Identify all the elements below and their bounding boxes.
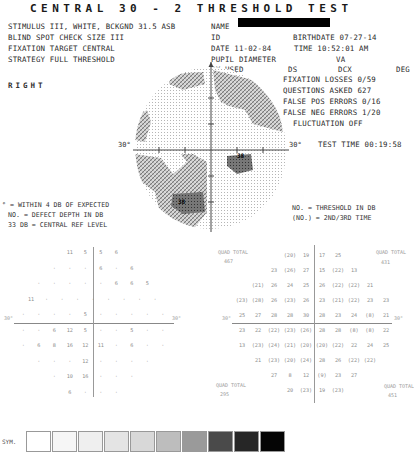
- test-time-of-day: TIME 10:52:01 AM: [294, 44, 368, 53]
- legend-central-ref: 33 DB = CENTRAL REF LEVEL: [8, 221, 107, 229]
- symbol-legend-swatch: [156, 431, 181, 452]
- threshold-grid-cell: (24): [268, 343, 281, 348]
- threshold-grid-cell: 28: [271, 313, 277, 318]
- threshold-grid-cell: (23): [284, 328, 297, 333]
- defect-grid-cell: ·: [99, 359, 102, 364]
- threshold-grid-cell: 21: [367, 283, 373, 288]
- threshold-grid-cell: 24: [351, 313, 357, 318]
- blind-spot-info: BLIND SPOT CHECK SIZE III: [8, 33, 124, 42]
- symbol-legend-swatch: [130, 431, 155, 452]
- defect-grid-cell: 12: [82, 344, 88, 349]
- quad-total-ul: 467: [224, 258, 233, 264]
- symbol-legend-swatch: [78, 431, 103, 452]
- threshold-grid-cell: 28: [319, 358, 325, 363]
- threshold-grid-axis-right: 30°: [394, 315, 403, 321]
- threshold-grid-cell: 19: [319, 388, 325, 393]
- defect-grid-cell: ·: [115, 266, 118, 271]
- threshold-grid-cell: (20): [284, 358, 297, 363]
- defect-grid-cell: 5: [130, 328, 133, 333]
- fixation-losses: FIXATION LOSSES 0/59: [283, 75, 376, 84]
- threshold-grid-cell: (21): [252, 283, 265, 288]
- threshold-grid-cell: 22: [351, 343, 357, 348]
- defect-grid-cell: ·: [68, 282, 71, 287]
- threshold-grid-cell: 12: [303, 373, 309, 378]
- defect-grid-cell: 5: [84, 313, 87, 318]
- defect-grid-cell: 16: [82, 375, 88, 380]
- symbol-legend-swatch: [104, 431, 129, 452]
- symbol-legend-swatch: [234, 431, 259, 452]
- fixation-target: FIXATION TARGET CENTRAL: [8, 44, 115, 53]
- threshold-grid-cell: (22): [268, 328, 281, 333]
- defect-grid-cell: ·: [37, 313, 40, 318]
- defect-grid-cell: 11: [67, 251, 73, 256]
- strategy: STRATEGY FULL THRESHOLD: [8, 55, 115, 64]
- defect-grid-cell: ·: [37, 328, 40, 333]
- defect-grid-cell: ·: [37, 359, 40, 364]
- threshold-grid-cell: 24: [287, 283, 293, 288]
- defect-grid-cell: ·: [84, 282, 87, 287]
- threshold-grid-cell: 26: [335, 358, 341, 363]
- defect-grid-cell: ·: [146, 359, 149, 364]
- grayscale-map-graphic: [133, 62, 289, 232]
- legend-repeat: (NO.) = 2ND/3RD TIME: [292, 214, 371, 222]
- defect-grid-cell: 6: [130, 266, 133, 271]
- defect-grid-axis-right: 30°: [172, 315, 181, 321]
- birthdate: BIRTHDATE 07-27-14: [293, 33, 377, 42]
- threshold-grid-cell: 25: [383, 343, 389, 348]
- defect-grid-cell: 6: [68, 390, 71, 395]
- defect-grid-cell: ·: [68, 359, 71, 364]
- threshold-grid: 30° 30° QUAD TOTAL 467 QUAD TOTAL 431 QU…: [210, 245, 412, 405]
- defect-grid-cell: ·: [37, 282, 40, 287]
- threshold-grid-cell: (22): [348, 298, 361, 303]
- defect-grid-cell: 6: [115, 282, 118, 287]
- threshold-grid-cell: 26: [303, 298, 309, 303]
- defect-grid-cell: ·: [91, 297, 94, 302]
- defect-grid-cell: 6: [115, 251, 118, 256]
- threshold-grid-cell: 27: [303, 268, 309, 273]
- defect-grid-cell: ·: [84, 390, 87, 395]
- threshold-grid-cell: (23): [284, 298, 297, 303]
- quad-total-ul-label: QUAD TOTAL: [218, 249, 248, 255]
- defect-grid-cell: ·: [153, 297, 156, 302]
- threshold-grid-cell: 27: [271, 373, 277, 378]
- defect-label-lower: 38: [178, 198, 185, 205]
- defect-grid-cell: ·: [22, 328, 25, 333]
- defect-grid-cell: ·: [146, 344, 149, 349]
- threshold-grid-cell: 21: [383, 313, 389, 318]
- threshold-grid-v-axis: [314, 245, 315, 403]
- threshold-grid-cell: (20): [284, 253, 297, 258]
- rx-deg: DEG: [396, 65, 410, 74]
- threshold-grid-axis-left: 30°: [222, 315, 231, 321]
- threshold-grid-cell: (21): [284, 343, 297, 348]
- threshold-grid-cell: 25: [303, 283, 309, 288]
- threshold-grid-cell: 23: [271, 268, 277, 273]
- defect-grid-cell: ·: [107, 297, 110, 302]
- stimulus-info: STIMULUS III, WHITE, BCKGND 31.5 ASB: [8, 22, 175, 31]
- legend-threshold: NO. = THRESHOLD IN DB: [292, 204, 375, 212]
- defect-grid-v-axis: [93, 247, 94, 397]
- defect-grid-cell: ·: [161, 344, 164, 349]
- rx-dcx: DCX: [338, 65, 352, 74]
- defect-grid-cell: 6: [53, 328, 56, 333]
- threshold-grid-cell: (26): [300, 328, 313, 333]
- defect-grid-h-axis: [14, 323, 174, 324]
- threshold-grid-cell: 26: [319, 283, 325, 288]
- defect-grid-cell: ·: [146, 328, 149, 333]
- false-pos-errors: FALSE POS ERRORS 0/16: [283, 97, 381, 106]
- legend-within-expected: ° = WITHIN 4 DB OF EXPECTED: [2, 201, 109, 209]
- defect-grid-cell: 10: [67, 375, 73, 380]
- quad-total-ur-label: QUAD TOTAL: [376, 249, 406, 255]
- threshold-grid-cell: (22): [348, 283, 361, 288]
- defect-grid-cell: ·: [99, 390, 102, 395]
- test-date: DATE 11-02-84: [211, 44, 271, 53]
- defect-grid-cell: ·: [130, 313, 133, 318]
- threshold-grid-cell: (23): [268, 358, 281, 363]
- threshold-grid-cell: 19: [303, 253, 309, 258]
- defect-grid-cell: ·: [53, 375, 56, 380]
- threshold-grid-cell: (9): [317, 373, 326, 378]
- threshold-grid-cell: 25: [239, 313, 245, 318]
- defect-grid-cell: ·: [99, 375, 102, 380]
- defect-grid-cell: ·: [53, 313, 56, 318]
- threshold-grid-cell: (8): [349, 328, 358, 333]
- symbol-legend-swatch: [182, 431, 207, 452]
